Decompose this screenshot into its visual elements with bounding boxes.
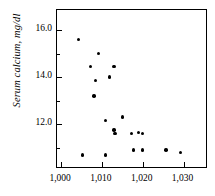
data-point [112, 65, 115, 68]
data-point [104, 119, 107, 122]
data-point [94, 79, 97, 82]
data-point [121, 115, 124, 118]
y-axis-tick-major [57, 124, 62, 125]
data-point [81, 153, 84, 156]
data-point [77, 38, 80, 41]
y-axis-tick-label: 12.0 [22, 117, 52, 127]
y-axis-tick-minor [57, 148, 60, 149]
plot-area [56, 9, 207, 168]
y-axis-tick-major [57, 77, 62, 78]
x-axis-tick-major [184, 162, 185, 167]
data-point [97, 52, 100, 55]
data-point [132, 148, 135, 151]
x-axis-tick-major [61, 162, 62, 167]
data-point [137, 131, 140, 134]
y-axis-tick-label: 14.0 [22, 70, 52, 80]
x-axis-tick-label: 1,030 [163, 173, 203, 183]
data-point [104, 153, 107, 156]
x-axis-tick-label: 1,010 [81, 173, 121, 183]
data-point [89, 65, 92, 68]
data-point [92, 94, 95, 97]
data-point [141, 132, 144, 135]
y-axis-tick-minor [57, 101, 60, 102]
data-point [141, 148, 144, 151]
x-axis-tick-major [143, 162, 144, 167]
y-axis-tick-minor [57, 54, 60, 55]
scatter-chart-figure: Serum calcium, mg/dl 16.014.012.01,0001,… [0, 0, 215, 196]
data-point [130, 132, 133, 135]
x-axis-tick-label: 1,020 [122, 173, 162, 183]
data-point [113, 132, 116, 135]
x-axis-tick-label: 1,000 [40, 173, 80, 183]
data-point [108, 75, 111, 78]
y-axis-tick-label: 16.0 [22, 23, 52, 33]
data-point [179, 151, 182, 154]
x-axis-tick-major [102, 162, 103, 167]
y-axis-tick-major [57, 30, 62, 31]
data-point [164, 148, 167, 151]
y-axis-title: Serum calcium, mg/dl [11, 0, 22, 131]
